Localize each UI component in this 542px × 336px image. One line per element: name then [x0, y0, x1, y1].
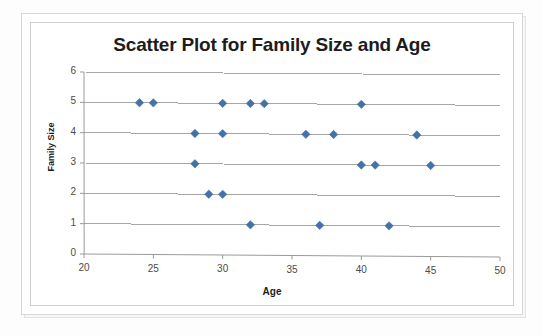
x-tick-label: 30 [209, 263, 237, 274]
data-point [260, 99, 268, 107]
y-tick-label: 0 [56, 247, 76, 258]
y-tick-label: 1 [56, 217, 76, 228]
x-tick-label: 50 [486, 265, 514, 276]
x-tick-label: 40 [347, 264, 375, 275]
gridlines [84, 72, 500, 257]
x-tick-label: 35 [278, 264, 306, 275]
y-tick-label: 2 [56, 186, 76, 197]
data-point [357, 161, 365, 169]
plot-area [30, 22, 514, 306]
data-point [413, 131, 421, 139]
data-point [191, 160, 199, 168]
data-point [149, 99, 157, 107]
y-tick-label: 3 [56, 156, 76, 167]
data-point [316, 221, 324, 229]
x-tick-label: 45 [417, 265, 445, 276]
y-tick-label: 5 [56, 95, 76, 106]
scatter-chart: Scatter Plot for Family Size and Age Fam… [30, 22, 514, 306]
data-point [218, 129, 226, 137]
data-point [329, 130, 337, 138]
y-tick-label: 4 [56, 126, 76, 137]
data-point [426, 161, 434, 169]
data-point [135, 99, 143, 107]
data-point [357, 100, 365, 108]
y-axis-title: Family Size [46, 102, 56, 192]
y-tick-label: 6 [56, 65, 76, 76]
data-point [205, 190, 213, 198]
data-point [246, 99, 254, 107]
data-point [246, 221, 254, 229]
data-point [371, 161, 379, 169]
data-point [385, 222, 393, 230]
tick-marks [80, 72, 500, 261]
x-axis-title: Age [30, 286, 514, 297]
data-point [191, 129, 199, 137]
data-point [218, 190, 226, 198]
data-point [302, 130, 310, 138]
scanned-page: Scatter Plot for Family Size and Age Fam… [0, 0, 542, 336]
data-point [218, 99, 226, 107]
x-tick-label: 25 [139, 263, 167, 274]
x-tick-label: 20 [70, 262, 98, 273]
